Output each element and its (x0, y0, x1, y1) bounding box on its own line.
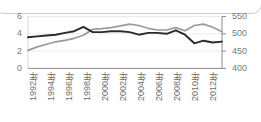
y-axis-left-tick-6: 6 (6, 12, 22, 21)
right-axis-ticks (222, 17, 226, 69)
x-tick-label-1994: 1994年 (46, 72, 56, 101)
y-axis-left-tick-2: 2 (6, 47, 22, 56)
x-tick-label-2010: 2010年 (190, 72, 200, 101)
series-grey-line (28, 24, 222, 50)
x-tick-label-2012: 2012年 (208, 72, 218, 101)
chart-root: 6 4 2 0 550 500 450 400 1992年 1994年 1996… (0, 0, 261, 122)
y-axis-right-tick-500: 500 (232, 29, 258, 38)
x-tick-label-2006: 2006年 (154, 72, 164, 101)
y-axis-right-tick-450: 450 (232, 47, 258, 56)
x-tick-label-1996: 1996年 (64, 72, 74, 101)
y-axis-right-tick-550: 550 (232, 12, 258, 21)
x-tick-label-2000: 2000年 (100, 72, 110, 101)
y-axis-left-tick-4: 4 (6, 29, 22, 38)
line-chart: 6 4 2 0 550 500 450 400 1992年 1994年 1996… (0, 0, 261, 122)
x-tick-label-2004: 2004年 (136, 72, 146, 101)
x-tick-label-1992: 1992年 (28, 72, 38, 101)
x-axis-labels: 1992年 1994年 1996年 1998年 2000年 2002年 2004… (0, 72, 261, 122)
x-tick-label-2008: 2008年 (172, 72, 182, 101)
x-tick-label-1998: 1998年 (82, 72, 92, 101)
x-tick-label-2002: 2002年 (118, 72, 128, 101)
